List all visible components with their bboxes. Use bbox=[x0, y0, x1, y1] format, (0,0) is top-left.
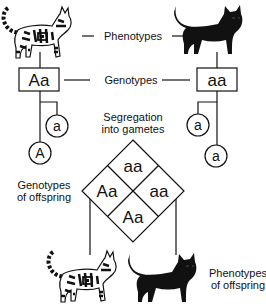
segregation-label-line2: into gametes bbox=[102, 123, 165, 135]
gamete-right-a2: a bbox=[212, 148, 220, 164]
parent-genotype-right: aa bbox=[208, 71, 227, 90]
offspring-genotypes-label-line1: Genotypes bbox=[17, 179, 71, 191]
parent-tabby-cat-icon bbox=[4, 7, 72, 58]
phenotypes-label: Phenotypes bbox=[104, 30, 163, 42]
offspring-tabby-cat-icon bbox=[49, 251, 117, 302]
punnett-cell-right: aa bbox=[150, 182, 169, 201]
punnett-cell-left: Aa bbox=[97, 182, 118, 201]
offspring-black-cat-icon bbox=[128, 253, 196, 302]
left-gamete-line-a bbox=[40, 102, 57, 115]
offspring-phenotypes-label-line2: of offspring bbox=[211, 279, 265, 291]
gamete-left-a: a bbox=[53, 118, 61, 134]
punnett-cell-top: aa bbox=[124, 157, 143, 176]
offspring-phenotypes-label-line1: Phenotypes bbox=[209, 267, 266, 279]
segregation-label-line1: Segregation bbox=[103, 111, 162, 123]
offspring-genotypes-label-line2: of offspring bbox=[17, 191, 71, 203]
genetics-cross-diagram: Phenotypes Aa aa Genotypes a A a a Segre… bbox=[0, 0, 266, 304]
genotypes-label: Genotypes bbox=[104, 74, 158, 86]
right-gamete-line-a1 bbox=[198, 102, 217, 114]
parent-genotype-left: Aa bbox=[29, 71, 50, 90]
gamete-left-A: A bbox=[35, 145, 45, 161]
parent-black-cat-icon bbox=[174, 5, 242, 54]
gamete-right-a1: a bbox=[194, 117, 202, 133]
punnett-cell-bottom: Aa bbox=[123, 208, 144, 227]
